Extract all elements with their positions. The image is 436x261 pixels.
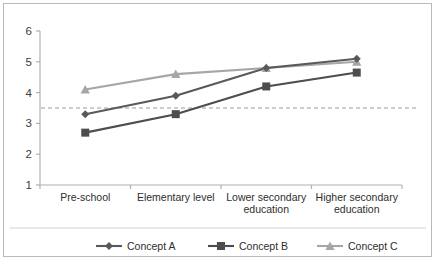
x-axis-category-labels: Pre-schoolElementary levelLower secondar…: [60, 191, 398, 215]
series-line-concept-a: [85, 59, 357, 114]
marker-square: [217, 242, 225, 250]
marker-square: [262, 82, 270, 90]
x-category-label: Elementary level: [137, 191, 215, 203]
y-tick-label: 2: [26, 148, 32, 160]
series-lines: [85, 59, 357, 133]
legend-label-concept-b: Concept B: [239, 240, 288, 252]
marker-square: [172, 110, 180, 118]
marker-diamond: [105, 242, 113, 250]
y-tick-label: 6: [26, 25, 32, 37]
marker-square: [81, 129, 89, 137]
x-category-label: Lower secondary: [226, 191, 307, 203]
chart-frame: 123456 Pre-schoolElementary levelLower s…: [3, 3, 432, 257]
y-tick-label: 3: [26, 117, 32, 129]
x-category-label: Higher secondary: [316, 191, 399, 203]
y-tick-label: 4: [26, 87, 33, 99]
marker-square: [353, 69, 361, 77]
y-axis-tick-labels: 123456: [26, 25, 33, 191]
y-tick-label: 5: [26, 56, 32, 68]
marker-diamond: [81, 110, 89, 118]
legend-label-concept-a: Concept A: [127, 240, 175, 252]
x-category-label: Pre-school: [60, 191, 110, 203]
legend-label-concept-c: Concept C: [348, 240, 398, 252]
x-axis-ticks: [40, 185, 402, 189]
y-tick-label: 1: [26, 179, 32, 191]
line-chart: 123456 Pre-schoolElementary levelLower s…: [4, 4, 433, 258]
marker-diamond: [172, 92, 180, 100]
series-line-concept-c: [85, 62, 357, 90]
chart-canvas: 123456 Pre-schoolElementary levelLower s…: [4, 4, 433, 258]
x-category-label: education: [243, 203, 289, 215]
chart-legend: Concept AConcept BConcept C: [96, 240, 398, 252]
x-category-label: education: [334, 203, 380, 215]
